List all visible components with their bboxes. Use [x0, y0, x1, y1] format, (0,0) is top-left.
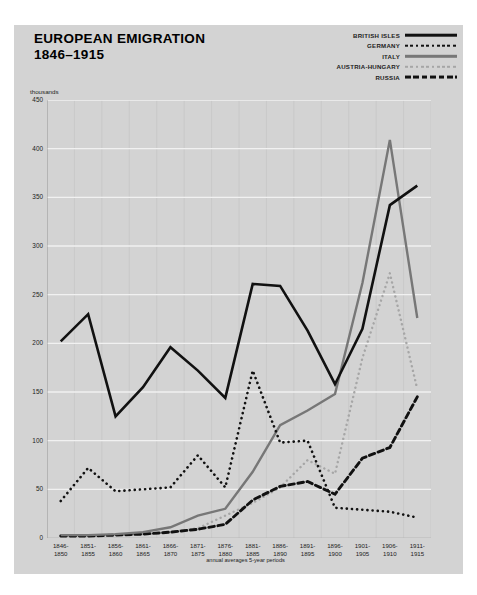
chart-page: EUROPEAN EMIGRATION 1846–1915 BRITISH IS… — [0, 0, 477, 595]
legend-item-label: ITALY — [382, 53, 400, 60]
y-axis-tick-label: 250 — [21, 291, 43, 298]
x-axis-tick-label-line-2: 1915 — [397, 550, 437, 558]
legend-item-italy: ITALY — [282, 51, 457, 62]
legend-item-russia: RUSSIA — [282, 72, 457, 83]
x-axis-tick-label-line-1: 1911- — [397, 542, 437, 550]
y-axis-tick-label: 50 — [21, 485, 43, 492]
y-axis-tick-label: 400 — [21, 145, 43, 152]
y-axis-tick-label: 150 — [21, 388, 43, 395]
title-line-2: 1846–1915 — [34, 47, 205, 63]
legend-item-germany: GERMANY — [282, 41, 457, 52]
chart-svg — [47, 100, 431, 538]
legend-swatch-icon — [405, 52, 457, 61]
legend: BRITISH ISLESGERMANYITALYAUSTRIA-HUNGARY… — [282, 30, 457, 83]
legend-swatch-icon — [405, 73, 457, 82]
legend-swatch-icon — [405, 31, 457, 40]
y-axis-tick-label: 0 — [21, 534, 43, 541]
y-axis-tick-label: 100 — [21, 437, 43, 444]
title-line-1: EUROPEAN EMIGRATION — [34, 31, 205, 46]
legend-item-label: GERMANY — [367, 42, 400, 49]
y-axis-tick-label: 300 — [21, 242, 43, 249]
legend-item-label: BRITISH ISLES — [353, 32, 400, 39]
page-title: EUROPEAN EMIGRATION 1846–1915 — [34, 31, 205, 63]
x-axis-tick-label: 1911-1915 — [397, 542, 437, 559]
legend-swatch-icon — [405, 41, 457, 50]
y-axis-unit-label: thousands — [30, 88, 59, 95]
legend-item-label: AUSTRIA-HUNGARY — [337, 63, 400, 70]
plot-area — [47, 100, 431, 538]
y-axis-tick-label: 200 — [21, 339, 43, 346]
y-axis-tick-label: 350 — [21, 193, 43, 200]
legend-item-austria-hungary: AUSTRIA-HUNGARY — [282, 62, 457, 73]
legend-item-label: RUSSIA — [375, 74, 400, 81]
legend-item-british-isles: BRITISH ISLES — [282, 30, 457, 41]
legend-swatch-icon — [405, 62, 457, 71]
y-axis-tick-label: 450 — [21, 96, 43, 103]
